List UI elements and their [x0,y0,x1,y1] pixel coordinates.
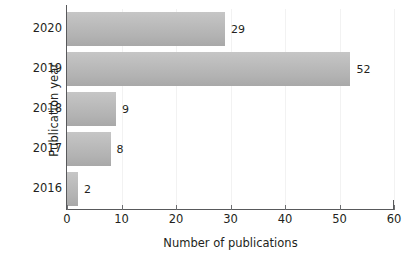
bar-value-2020: 29 [231,24,245,35]
bar-2016[interactable] [67,172,78,206]
y-axis-tick-labels: 2020 2019 2018 2017 2016 [18,9,63,209]
y-tick-label-2016: 2016 [18,169,63,209]
bar-value-2016: 2 [84,184,91,195]
x-tick-label-10: 10 [114,214,129,226]
x-tick-label-50: 50 [332,214,347,226]
bar-2018[interactable] [67,92,116,126]
y-tick-label-2020: 2020 [18,9,63,49]
bar-value-2017: 8 [117,144,124,155]
x-tick-label-40: 40 [278,214,293,226]
gridline-60 [394,9,395,209]
bar-value-2019: 52 [356,64,370,75]
bar-slot-2016: 2 [67,169,394,209]
bar-value-2018: 9 [122,104,129,115]
y-tick-label-2018: 2018 [18,89,63,129]
x-tick-label-30: 30 [223,214,238,226]
bar-chart: Publication year 2020 2019 2018 2017 201… [0,0,413,265]
x-axis-spine [66,209,395,210]
bar-2017[interactable] [67,132,111,166]
bar-slot-2020: 29 [67,9,394,49]
x-tick-label-0: 0 [63,214,70,226]
x-tick-label-60: 60 [387,214,402,226]
x-axis-end-cap [393,200,394,210]
y-tick-label-2017: 2017 [18,129,63,169]
bar-2019[interactable] [67,52,350,86]
bar-slot-2017: 8 [67,129,394,169]
x-axis-title: Number of publications [67,238,394,250]
bar-slot-2018: 9 [67,89,394,129]
x-tick-label-20: 20 [169,214,184,226]
plot-area: 29 52 9 8 2 [67,9,394,209]
bar-slot-2019: 52 [67,49,394,89]
y-tick-label-2019: 2019 [18,49,63,89]
y-axis-spine [66,5,67,210]
bar-2020[interactable] [67,12,225,46]
bar-series: 29 52 9 8 2 [67,9,394,209]
